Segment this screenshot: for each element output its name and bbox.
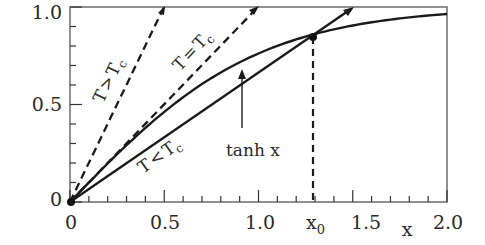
x-tick-label-0.5: 0.5 [150,211,180,233]
y-tick-label-0: 0 [50,188,62,210]
tanh-arrowhead [238,69,246,79]
label-T-greater-Tc: T>Tc [89,54,131,107]
label-T-equal-Tc: T=Tc [168,26,218,77]
y-tick-label-0.5: 0.5 [32,93,62,115]
x-tick-label-1.5: 1.5 [351,211,381,233]
x0-subscript: 0 [317,222,325,237]
intersection-marker [309,33,317,41]
x-axis-label: x [402,218,413,240]
x-tick-label-0: 0 [65,211,77,233]
x-tick-label-1.0: 1.0 [245,211,275,233]
origin-marker [67,198,75,206]
axis-ticks [70,7,447,202]
tanh-label: tanh x [226,140,280,160]
tanh-curve [70,14,447,202]
tanh-mean-field-chart: 1.0 0.5 0 0 0.5 1.0 1.5 2.0 x0 x tanh x … [0,0,485,245]
x-tick-label-2.0: 2.0 [433,211,463,233]
x0-tick-label: x0 [306,211,325,237]
x0-main: x [306,211,317,233]
y-tick-label-1: 1.0 [32,1,62,23]
plot-frame [70,7,447,202]
